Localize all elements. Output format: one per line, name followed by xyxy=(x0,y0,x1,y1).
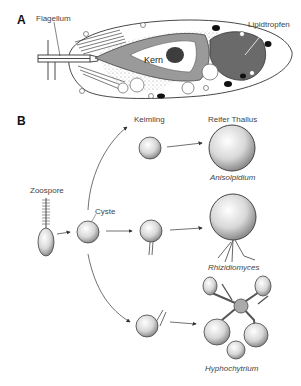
anisolpidium-thallus xyxy=(209,125,255,171)
nucleus-label: Kern xyxy=(144,55,163,65)
zoospore-figure xyxy=(38,198,54,256)
cyst-figure xyxy=(77,221,99,243)
lipid-label: Lipidtropfen xyxy=(248,20,290,29)
genus-rhizidiomyces: Rhizidiomyces xyxy=(208,263,260,272)
mature-thallus-label: Reifer Thallus xyxy=(208,115,257,124)
zoospore-label: Zoospore xyxy=(30,186,64,195)
hyphochytrium-thallus xyxy=(203,276,271,359)
germling-2 xyxy=(140,220,162,255)
genus-anisolpidium: Anisolpidium xyxy=(210,173,255,182)
cyst-label: Cyste xyxy=(95,207,115,216)
germling-3 xyxy=(136,310,166,337)
panel-b-label: B xyxy=(17,114,26,128)
rhizidiomyces-thallus xyxy=(210,194,256,262)
flagellum-label: Flagellum xyxy=(36,14,71,23)
germling-label: Keimling xyxy=(134,115,165,124)
panel-a-label: A xyxy=(17,13,26,27)
zoospore-cell-diagram xyxy=(38,20,292,99)
life-cycle-diagram xyxy=(38,125,271,359)
nucleolus xyxy=(166,47,184,63)
genus-hyphochytrium: Hyphochytrium xyxy=(205,364,258,373)
germling-1 xyxy=(139,137,161,159)
